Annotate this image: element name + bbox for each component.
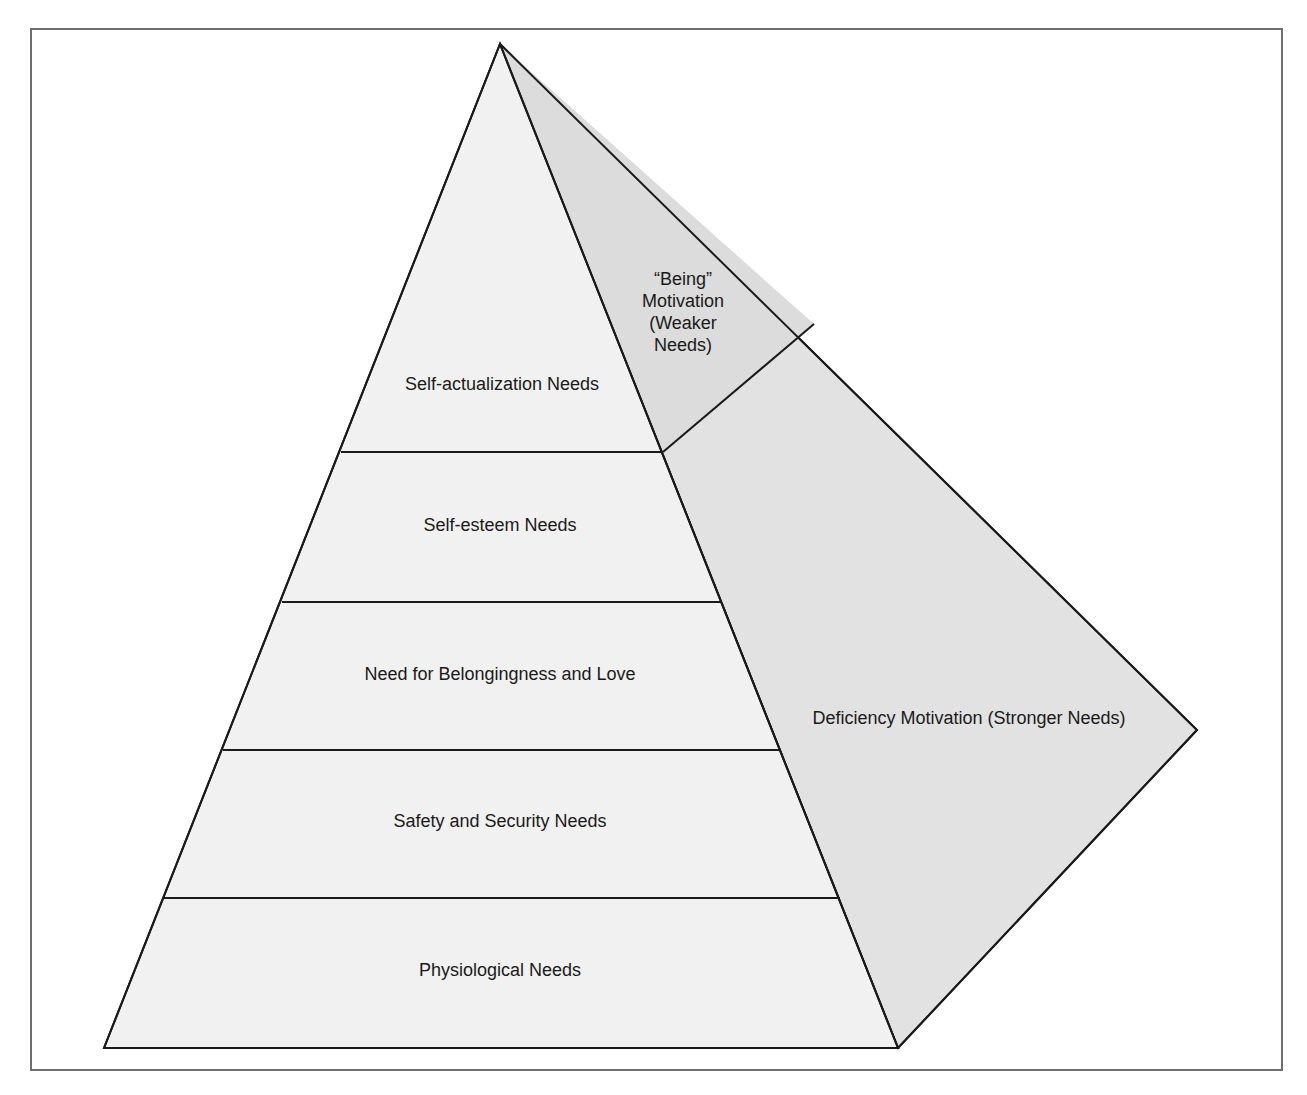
level-label-belongingness: Need for Belongingness and Love (364, 663, 635, 685)
deficiency-motivation-label: Deficiency Motivation (Stronger Needs) (812, 707, 1125, 729)
level-label-physiological: Physiological Needs (419, 959, 581, 981)
level-label-safety: Safety and Security Needs (393, 810, 606, 832)
level-label-self-actualization: Self-actualization Needs (405, 373, 599, 395)
level-label-self-esteem: Self-esteem Needs (423, 514, 576, 536)
being-motivation-label: “Being” Motivation (Weaker Needs) (642, 268, 724, 356)
pyramid-diagram (0, 0, 1307, 1095)
